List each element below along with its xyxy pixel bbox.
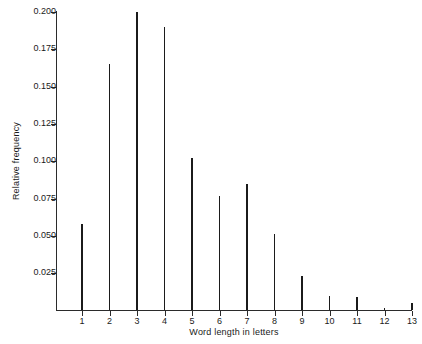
y-tick-label: 0.075 <box>10 194 56 203</box>
x-tick-label: 9 <box>290 316 314 327</box>
y-tick-label: 0.200 <box>10 7 56 16</box>
x-tick-label: 11 <box>345 316 369 327</box>
bar-spike <box>109 64 111 310</box>
x-tick-label: 8 <box>263 316 287 327</box>
x-tick-label: 5 <box>180 316 204 327</box>
bar-spike <box>329 296 331 311</box>
bar-spike <box>274 234 276 310</box>
bar-spike <box>136 12 138 310</box>
x-axis-title: Word length in letters <box>56 327 412 337</box>
y-tick-label: 0.150 <box>10 82 56 91</box>
bar-spike <box>219 196 221 311</box>
x-tick-label: 4 <box>153 316 177 327</box>
y-tick-label: 0.050 <box>10 231 56 240</box>
y-tick-label: 0.100 <box>10 156 56 165</box>
y-axis-line <box>56 11 57 311</box>
bar-spike <box>384 308 386 311</box>
y-tick-label: 0.175 <box>10 44 56 53</box>
x-tick-label: 3 <box>125 316 149 327</box>
bar-spike <box>81 224 83 311</box>
chart-figure: Relative frequency 0.0250.0500.0750.1000… <box>0 0 422 344</box>
bar-spike <box>164 27 166 310</box>
y-tick-label: 0.025 <box>10 268 56 277</box>
bar-spike <box>356 297 358 310</box>
bar-spike <box>301 276 303 310</box>
bar-spike <box>411 303 413 310</box>
x-tick-label: 7 <box>235 316 259 327</box>
x-tick-label: 13 <box>400 316 422 327</box>
x-tick-label: 1 <box>70 316 94 327</box>
x-tick-label: 10 <box>318 316 342 327</box>
bar-spike <box>191 158 193 310</box>
x-tick-label: 12 <box>373 316 397 327</box>
bar-spike <box>246 184 248 311</box>
y-tick-label: 0.125 <box>10 119 56 128</box>
x-tick-label: 6 <box>208 316 232 327</box>
x-tick-label: 2 <box>98 316 122 327</box>
